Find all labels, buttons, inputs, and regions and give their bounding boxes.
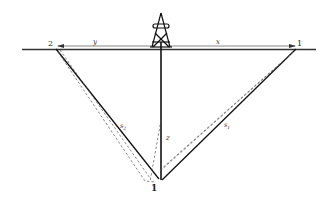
distance-x-label: x (216, 38, 220, 46)
slant-s2-label: s2 (120, 122, 126, 131)
path-s2 (56, 49, 159, 179)
dimension-y (57, 44, 155, 48)
drilling-rig-icon (150, 13, 172, 47)
depth-z-label: z (165, 134, 170, 142)
path-s1 (162, 49, 296, 180)
bottom-point-label: 1 (151, 183, 157, 193)
distance-y-label: y (92, 38, 98, 46)
dimension-x (167, 44, 296, 48)
point-2-label: 2 (48, 39, 53, 48)
dashed-rays (58, 50, 293, 182)
borehole-geometry-diagram: 2 1 1 y x z s2 s1 (0, 0, 332, 199)
point-1-label: 1 (297, 39, 302, 48)
slant-s1-label: s1 (224, 121, 230, 130)
